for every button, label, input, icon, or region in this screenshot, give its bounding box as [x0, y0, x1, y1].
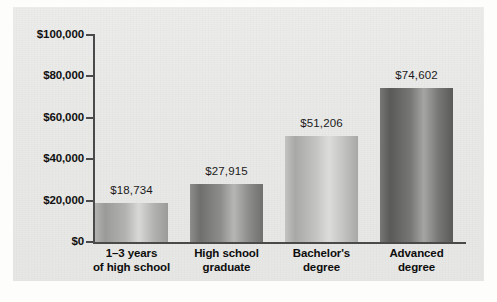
y-axis-tick-mark — [86, 75, 94, 77]
bar-value-label: $18,734 — [110, 184, 152, 196]
y-axis-tick-label: $0 — [2, 236, 84, 248]
bar: $27,915 — [190, 184, 263, 242]
category-label-line2: degree — [356, 261, 477, 275]
y-axis-tick-label: $20,000 — [2, 195, 84, 207]
bar-fill — [285, 136, 358, 242]
x-axis-line — [93, 242, 466, 244]
x-axis-category-label: Advanceddegree — [356, 247, 477, 274]
y-axis-tick-mark — [86, 117, 94, 119]
y-axis-tick-label: $80,000 — [2, 70, 84, 82]
y-axis-tick-mark — [86, 241, 94, 243]
bar-fill — [95, 203, 168, 242]
y-axis-tick-label: $60,000 — [2, 112, 84, 124]
bar-value-label: $51,206 — [300, 117, 342, 129]
y-axis-tick-label: $100,000 — [2, 29, 84, 41]
category-label-line1: 1–3 years — [106, 247, 158, 259]
category-label-line1: Bachelor's — [293, 247, 350, 259]
bar: $18,734 — [95, 203, 168, 242]
y-axis-tick-mark — [86, 200, 94, 202]
category-label-line1: Advanced — [389, 247, 443, 259]
bar-fill — [190, 184, 263, 242]
category-label-line1: High school — [194, 247, 259, 259]
bar-value-label: $27,915 — [205, 165, 247, 177]
chart-figure: $0$20,000$40,000$60,000$80,000$100,000 $… — [0, 0, 497, 302]
y-axis-tick-mark — [86, 34, 94, 36]
bar-value-label: $74,602 — [395, 69, 437, 81]
bar: $51,206 — [285, 136, 358, 242]
y-axis-tick-mark — [86, 158, 94, 160]
y-axis-tick-label: $40,000 — [2, 153, 84, 165]
bar-fill — [380, 88, 453, 242]
bar: $74,602 — [380, 88, 453, 242]
